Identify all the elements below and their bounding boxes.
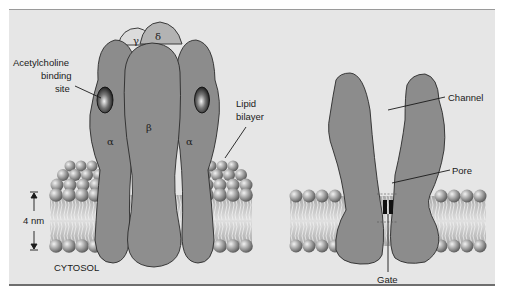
channel-label: Channel [448,92,483,103]
channel-wall-left [329,73,384,264]
binding-site-label-line3: site [55,83,70,94]
gamma-label: γ [133,35,139,46]
acetylcholine-receptor-diagram: γ δ α β α Acetylcholine binding site Lip… [0,0,505,300]
beta-label: β [146,122,152,133]
pore-label: Pore [452,165,472,176]
lipid-bilayer-annotation: Lipid bilayer [225,98,264,158]
gate-label: Gate [377,274,398,285]
lipid-label-line2: bilayer [236,111,264,122]
binding-site-left [97,87,113,113]
lipid-label-line1: Lipid [236,98,256,109]
alpha-left-label: α [107,136,114,147]
binding-site-label-line1: Acetylcholine [13,57,69,68]
channel-wall-right [391,74,445,263]
thickness-label: 4 nm [23,215,44,226]
delta-label: δ [155,31,161,42]
cytosol-label: CYTOSOL [54,262,99,273]
binding-site-label-line2: binding [41,70,72,81]
beta-subunit [124,43,181,267]
binding-site-right [195,87,210,113]
alpha-right-label: α [186,136,193,147]
binding-site-annotation: Acetylcholine binding site [13,57,101,98]
